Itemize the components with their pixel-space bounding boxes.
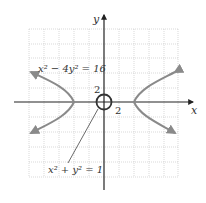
x-axis-label: x [191,104,198,117]
hyperbola-right-branch-lower [134,102,175,133]
hyperbola-left-branch [31,72,74,102]
tick-label-y: 2 [94,84,100,95]
hyperbola-right-branch [134,72,175,102]
circle-label: x² + y² = 1 [48,164,103,175]
y-axis-label: y [92,13,100,26]
hyperbola-left-branch-lower [31,102,74,133]
tick-label-x: 2 [115,105,121,116]
graph-figure: y x 2 2 x² − 4y² = 16 x² + y² = 1 [0,0,206,203]
hyperbola-label: x² − 4y² = 16 [38,63,107,74]
